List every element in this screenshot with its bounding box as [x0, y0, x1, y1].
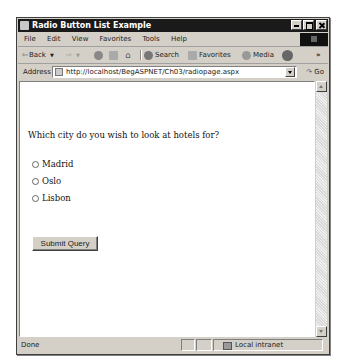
window-title: Radio Button List Example [32, 19, 151, 32]
home-icon: ⌂ [125, 47, 131, 63]
menu-file[interactable]: File [24, 35, 36, 43]
security-zone: Local intranet [223, 338, 283, 353]
radio-option-oslo[interactable]: Oslo [32, 176, 61, 186]
home-button[interactable]: ⌂ [125, 47, 131, 63]
back-dropdown-icon[interactable]: ▼ [50, 47, 54, 63]
toolbar: ⇦ Back ▼ ⇨ ▼ ⌂ Search Favorites Media » [18, 47, 328, 64]
browser-window: Radio Button List Example File Edit View… [16, 17, 330, 355]
radio-button[interactable] [32, 195, 39, 202]
scroll-down-button[interactable] [316, 326, 327, 337]
zone-label: Local intranet [235, 338, 283, 353]
search-icon [144, 51, 153, 60]
stop-button[interactable] [94, 47, 105, 63]
back-button[interactable]: ⇦ Back ▼ [22, 47, 54, 63]
submit-query-button[interactable]: Submit Query [32, 236, 98, 251]
address-dropdown-button[interactable] [285, 67, 295, 77]
page-icon [55, 68, 63, 76]
refresh-icon [109, 51, 118, 60]
maximize-button[interactable] [303, 20, 314, 30]
radio-option-madrid[interactable]: Madrid [32, 159, 73, 169]
page-content: Which city do you wish to look at hotels… [19, 81, 315, 337]
status-panel [181, 339, 195, 351]
favorites-button[interactable]: Favorites [188, 47, 231, 63]
back-arrow-icon: ⇦ [22, 47, 28, 63]
windows-logo-icon [300, 33, 328, 46]
close-button[interactable] [316, 20, 327, 30]
address-bar: Address http://localhost/BegASPNET/Ch03/… [18, 64, 328, 80]
status-panel [196, 339, 212, 351]
address-url: http://localhost/BegASPNET/Ch03/radiopag… [66, 67, 239, 77]
forward-dropdown-icon[interactable]: ▼ [76, 47, 80, 63]
ie-icon [20, 21, 29, 30]
refresh-button[interactable] [109, 47, 120, 63]
radio-label: Oslo [42, 176, 61, 186]
scroll-up-button[interactable] [316, 81, 327, 92]
status-bar: Done Local intranet [18, 338, 328, 353]
status-text: Done [21, 338, 39, 353]
history-icon [282, 50, 293, 61]
forward-arrow-icon: ⇨ [66, 47, 72, 63]
stop-icon [94, 51, 103, 60]
radio-label: Lisbon [42, 193, 71, 203]
menu-tools[interactable]: Tools [142, 35, 159, 43]
menu-help[interactable]: Help [171, 35, 187, 43]
address-label: Address [23, 64, 51, 80]
address-input[interactable]: http://localhost/BegASPNET/Ch03/radiopag… [52, 66, 297, 78]
favorites-icon [188, 51, 197, 60]
search-button[interactable]: Search [144, 47, 179, 63]
toolbar-overflow-button[interactable]: » [316, 47, 321, 63]
go-button[interactable]: ↷ Go [306, 64, 324, 80]
menu-favorites[interactable]: Favorites [100, 35, 132, 43]
menu-bar: File Edit View Favorites Tools Help [18, 33, 328, 47]
menu-edit[interactable]: Edit [47, 35, 61, 43]
history-button[interactable] [282, 47, 295, 63]
radio-label: Madrid [42, 159, 73, 169]
radio-option-lisbon[interactable]: Lisbon [32, 193, 71, 203]
vertical-scrollbar[interactable] [316, 81, 327, 337]
go-arrow-icon: ↷ [306, 68, 312, 76]
toolbar-separator [140, 50, 142, 60]
media-icon [242, 51, 251, 60]
forward-button[interactable]: ⇨ ▼ [66, 47, 80, 63]
window-controls [290, 20, 327, 30]
radio-button[interactable] [32, 178, 39, 185]
title-bar: Radio Button List Example [18, 19, 328, 32]
menu-view[interactable]: View [72, 35, 89, 43]
question-label: Which city do you wish to look at hotels… [28, 130, 219, 140]
minimize-button[interactable] [291, 20, 302, 30]
radio-button[interactable] [32, 161, 39, 168]
media-button[interactable]: Media [242, 47, 274, 63]
local-intranet-icon [223, 342, 232, 350]
